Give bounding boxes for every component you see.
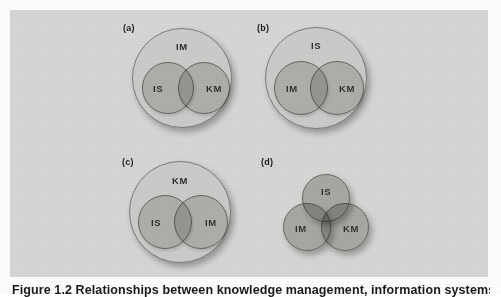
panel-a-label-left: IS	[153, 83, 163, 94]
panel-d-label-right: KM	[343, 223, 359, 234]
panel-a-label-right: KM	[206, 83, 222, 94]
panel-b-tag: (b)	[257, 23, 269, 33]
panel-a-inner-circle-km	[178, 62, 230, 114]
panel-a-label-outer: IM	[176, 41, 188, 52]
figure-panel: (a) IM IS KM (b) IS IM KM (c) KM	[10, 10, 488, 277]
panel-c-label-left: IS	[151, 217, 161, 228]
panel-b-label-left: IM	[286, 83, 298, 94]
panel-d-label-left: IM	[295, 223, 307, 234]
panel-b-label-outer: IS	[311, 40, 321, 51]
panel-d-tag: (d)	[261, 157, 273, 167]
panel-d-label-top: IS	[321, 186, 331, 197]
panel-c-tag: (c)	[122, 157, 134, 167]
panel-c-inner-circle-im	[174, 195, 228, 249]
panel-c-label-outer: KM	[172, 175, 188, 186]
panel-a-tag: (a)	[123, 23, 135, 33]
figure-caption: Figure 1.2 Relationships between knowled…	[12, 283, 490, 297]
panel-b-label-right: KM	[339, 83, 355, 94]
panel-c-label-right: IM	[205, 217, 217, 228]
panel-b-inner-circle-km	[310, 61, 364, 115]
